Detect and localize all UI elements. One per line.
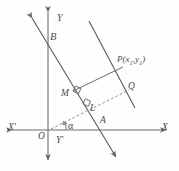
- label-point-m: M: [61, 89, 69, 99]
- label-point-p-open: (x: [123, 54, 130, 64]
- label-point-b: B: [50, 32, 56, 43]
- label-x-axis-positive: X: [162, 123, 168, 133]
- geometry-figure: Y Y' X X' O B M L A Q P(x1,y1) α: [0, 0, 179, 171]
- label-x-axis-negative: X': [8, 123, 16, 133]
- label-point-p: P(x1,y1): [117, 55, 145, 66]
- label-y-axis-negative: Y': [56, 136, 63, 146]
- label-point-q: Q: [128, 82, 135, 92]
- label-point-l: L: [90, 104, 95, 114]
- label-angle-alpha: α: [68, 121, 73, 131]
- label-point-a: A: [100, 116, 106, 126]
- label-origin: O: [38, 132, 45, 142]
- segment-mp: [73, 67, 123, 91]
- label-y-axis-positive: Y: [57, 14, 62, 24]
- label-point-p-close: ): [142, 54, 145, 64]
- geometry-canvas: [0, 0, 179, 171]
